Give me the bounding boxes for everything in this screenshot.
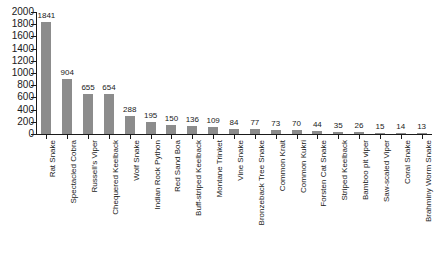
x-axis-tick-mark bbox=[67, 135, 68, 139]
y-axis-tick-labels: 2000180016001400120010008006004002000 bbox=[0, 0, 34, 140]
x-axis-tick-mark bbox=[317, 135, 318, 139]
bar bbox=[312, 131, 322, 134]
x-axis-tick-mark bbox=[359, 135, 360, 139]
y-axis-tick-mark bbox=[31, 134, 36, 135]
x-axis-tick-mark bbox=[338, 135, 339, 139]
x-axis-category-label: Indian Rock Python bbox=[154, 140, 162, 209]
x-axis-category-label: Buff-striped Keelback bbox=[195, 140, 203, 216]
x-axis-category-label: Bamboo pit viper bbox=[362, 140, 370, 200]
bar-chart: 2000180016001400120010008006004002000 18… bbox=[0, 0, 436, 259]
x-axis-category-label: Vine Snake bbox=[237, 140, 245, 181]
x-axis-tick-mark bbox=[297, 135, 298, 139]
x-axis-tick-mark bbox=[276, 135, 277, 139]
x-axis-tick-mark bbox=[192, 135, 193, 139]
x-axis-category-label: Saw-scaled Viper bbox=[383, 140, 391, 202]
bar bbox=[333, 132, 343, 134]
y-axis-tick-mark bbox=[31, 85, 36, 86]
x-axis-tick-mark bbox=[46, 135, 47, 139]
x-axis-tick-mark bbox=[255, 135, 256, 139]
plot-area: 1841904655654288195150136109847773704435… bbox=[36, 12, 432, 134]
bar bbox=[104, 94, 114, 134]
x-axis-tick-mark bbox=[151, 135, 152, 139]
bar bbox=[250, 129, 260, 134]
x-axis-tick-mark bbox=[234, 135, 235, 139]
x-axis-tick-mark bbox=[109, 135, 110, 139]
x-axis-category-label: Spectacled Cobra bbox=[70, 140, 78, 204]
bar-value-label: 1841 bbox=[32, 12, 60, 20]
x-axis-category-label: Rat Snake bbox=[49, 140, 57, 177]
bar bbox=[292, 130, 302, 134]
x-axis-category-label: Wolf Snake bbox=[133, 140, 141, 181]
x-axis-tick-mark bbox=[401, 135, 402, 139]
bar-value-label: 13 bbox=[408, 123, 436, 131]
x-axis-category-label: Striped Keelback bbox=[341, 140, 349, 200]
y-axis-tick-mark bbox=[31, 110, 36, 111]
y-axis-tick-mark bbox=[31, 61, 36, 62]
y-axis-tick-mark bbox=[31, 49, 36, 50]
y-axis-tick-mark bbox=[31, 24, 36, 25]
x-axis-tick-mark bbox=[88, 135, 89, 139]
x-axis-category-label: Russell's Viper bbox=[91, 140, 99, 193]
bar-value-label: 904 bbox=[53, 69, 81, 77]
x-axis-tick-mark bbox=[130, 135, 131, 139]
bar bbox=[208, 127, 218, 134]
x-axis-tick-mark bbox=[171, 135, 172, 139]
bar-value-label: 654 bbox=[95, 84, 123, 92]
bar bbox=[354, 132, 364, 134]
x-axis-category-label: Common Krait bbox=[279, 140, 287, 191]
x-axis-tick-mark bbox=[380, 135, 381, 139]
x-axis-category-label: Chequered Keelback bbox=[112, 140, 120, 215]
bar bbox=[41, 22, 51, 134]
x-axis-tick-mark bbox=[422, 135, 423, 139]
x-axis-tick-mark bbox=[213, 135, 214, 139]
x-axis-category-label: Common Kukri bbox=[300, 140, 308, 193]
bar bbox=[125, 116, 135, 134]
bar bbox=[271, 130, 281, 134]
y-axis-tick-mark bbox=[31, 97, 36, 98]
bar bbox=[83, 94, 93, 134]
y-axis-tick-mark bbox=[31, 73, 36, 74]
y-axis-tick-mark bbox=[31, 36, 36, 37]
bar bbox=[417, 133, 427, 134]
bar bbox=[396, 133, 406, 134]
bar bbox=[375, 133, 385, 134]
x-axis-category-label: Bronzeback Tree Snake bbox=[258, 140, 266, 225]
x-axis-category-label: Forsten Cat Snake bbox=[320, 140, 328, 207]
x-axis-category-label: Coral Snake bbox=[404, 140, 412, 184]
y-axis-tick-mark bbox=[31, 122, 36, 123]
bar bbox=[166, 125, 176, 134]
y-axis-tick-mark bbox=[31, 12, 36, 13]
bar bbox=[62, 79, 72, 134]
bar bbox=[146, 122, 156, 134]
x-axis-category-label: Montane Trinket bbox=[216, 140, 224, 197]
x-axis-category-labels: Rat SnakeSpectacled CobraRussell's Viper… bbox=[36, 140, 432, 259]
bar bbox=[229, 129, 239, 134]
x-axis-category-label: Brahminy Worm Snake bbox=[425, 140, 433, 222]
x-axis-category-label: Red Sand Boa bbox=[174, 140, 182, 192]
bar bbox=[187, 126, 197, 134]
